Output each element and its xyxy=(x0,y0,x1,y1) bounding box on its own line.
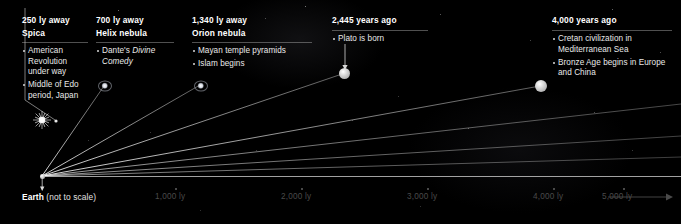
axis-tick-4000 xyxy=(553,188,555,190)
column-bronze-distance: 4,000 years ago xyxy=(552,14,672,27)
earth-origin-label: Earth (not to scale) xyxy=(22,192,96,202)
list-item: Cretan civilization in Mediterranean Sea xyxy=(552,34,672,55)
column-helix-object: Helix nebula xyxy=(96,27,174,40)
column-orion-object: Orion nebula xyxy=(192,27,312,40)
column-bronze-bullets: Cretan civilization in Mediterranean Sea… xyxy=(552,34,672,79)
column-plato: 2,445 years ago Plato is born xyxy=(332,14,428,47)
axis-tick-2000 xyxy=(301,188,303,190)
list-item: Mayan temple pyramids xyxy=(192,46,312,57)
list-item: Dante's Divine Comedy xyxy=(96,46,174,67)
list-item-italic: Divine Comedy xyxy=(102,46,155,66)
column-helix-nebula: 700 ly away Helix nebula Dante's Divine … xyxy=(96,14,174,70)
column-orion-distance: 1,340 ly away xyxy=(192,14,312,27)
list-item: Bronze Age begins in Europe and China xyxy=(552,58,672,79)
sun-burst-icon xyxy=(32,110,52,130)
axis-tick-5000 xyxy=(623,188,625,190)
column-plato-bullets: Plato is born xyxy=(332,34,428,45)
column-helix-bullets: Dante's Divine Comedy xyxy=(96,46,174,67)
column-orion-nebula: 1,340 ly away Orion nebula Mayan temple … xyxy=(192,14,312,72)
ray-bronze-age xyxy=(42,86,540,176)
earth-origin-label-rest: (not to scale) xyxy=(44,192,96,202)
axis-label-3000: 3,000 ly xyxy=(407,192,437,201)
axis-label-5000: 5,000 ly xyxy=(602,192,632,201)
column-orion-bullets: Mayan temple pyramids Islam begins xyxy=(192,46,312,70)
list-item: American Revolution under way xyxy=(22,46,88,78)
column-spica: 250 ly away Spica American Revolution un… xyxy=(22,14,88,104)
leader-endpoint xyxy=(54,119,57,122)
ray-extra-3 xyxy=(42,157,681,176)
axis-arrow-head xyxy=(666,194,673,201)
column-spica-divider xyxy=(22,42,88,43)
earth-origin-label-bold: Earth xyxy=(22,192,44,202)
ray-extra-1 xyxy=(42,104,681,176)
column-spica-distance: 250 ly away xyxy=(22,14,88,27)
earth-pointer xyxy=(38,178,48,192)
light-travel-time-infographic: 250 ly away Spica American Revolution un… xyxy=(0,0,681,224)
column-helix-divider xyxy=(96,42,174,43)
column-spica-bullets: American Revolution under way Middle of … xyxy=(22,46,88,101)
list-item: Islam begins xyxy=(192,59,312,70)
list-item: Plato is born xyxy=(332,34,428,45)
axis-label-2000: 2,000 ly xyxy=(281,192,311,201)
column-spica-object: Spica xyxy=(22,27,88,40)
axis-tick-1000 xyxy=(175,188,177,190)
column-bronze-divider xyxy=(552,30,672,31)
nebula-icon-helix xyxy=(97,78,112,93)
axis-tick-3000 xyxy=(427,188,429,190)
column-bronze-age: 4,000 years ago Cretan civilization in M… xyxy=(552,14,672,81)
list-item: Middle of Edo period, Japan xyxy=(22,80,88,101)
nebula-core xyxy=(197,82,204,89)
column-plato-divider xyxy=(332,30,428,31)
axis-label-4000: 4,000 ly xyxy=(533,192,563,201)
nebula-icon-orion xyxy=(193,78,208,93)
circle-marker-bronze-age xyxy=(535,80,547,92)
ray-extra-2 xyxy=(42,136,681,176)
column-helix-distance: 700 ly away xyxy=(96,14,174,27)
axis-label-1000: 1,000 ly xyxy=(155,192,185,201)
column-orion-divider xyxy=(192,42,312,43)
circle-marker-plato xyxy=(339,68,350,79)
column-plato-distance: 2,445 years ago xyxy=(332,14,428,27)
nebula-core xyxy=(101,82,108,89)
